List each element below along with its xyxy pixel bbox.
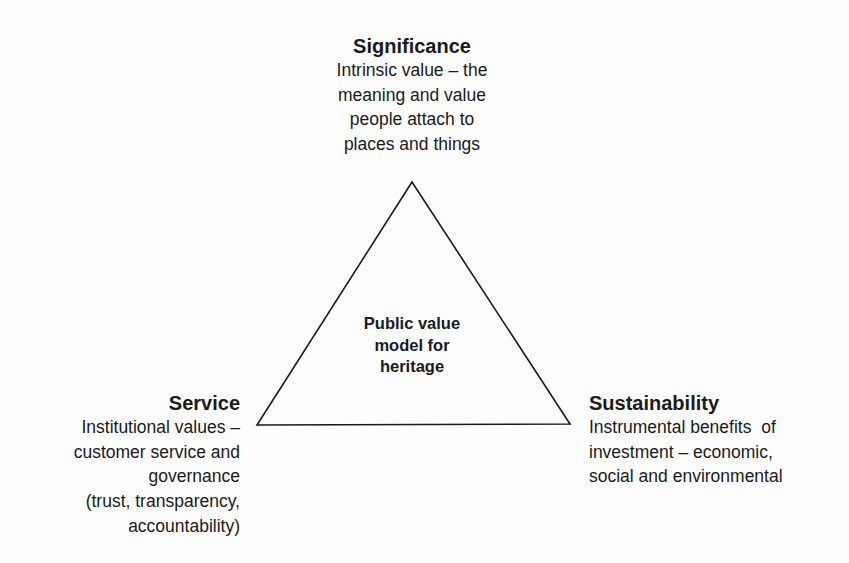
service-description-line: Institutional values – bbox=[0, 415, 240, 440]
center-label: Public value model for heritage bbox=[332, 313, 492, 378]
center-label-line: Public value bbox=[332, 313, 492, 335]
center-label-line: heritage bbox=[332, 356, 492, 378]
node-sustainability: Sustainability Instrumental benefits of … bbox=[589, 391, 849, 489]
service-description-line: customer service and bbox=[0, 440, 240, 465]
service-description-line: governance bbox=[0, 464, 240, 489]
center-label-line: model for bbox=[332, 335, 492, 357]
significance-description-line: people attach to bbox=[262, 107, 562, 132]
sustainability-description-line: Instrumental benefits of bbox=[589, 415, 849, 440]
significance-description-line: meaning and value bbox=[262, 83, 562, 108]
sustainability-description-line: social and environmental bbox=[589, 464, 849, 489]
triangle-shape bbox=[257, 182, 570, 425]
node-service: Service Institutional values – customer … bbox=[0, 391, 240, 539]
significance-description-line: Intrinsic value – the bbox=[262, 58, 562, 83]
significance-description-line: places and things bbox=[262, 132, 562, 157]
service-description-line: (trust, transparency, bbox=[0, 489, 240, 514]
node-significance: Significance Intrinsic value – the meani… bbox=[262, 34, 562, 157]
sustainability-description-line: investment – economic, bbox=[589, 440, 849, 465]
service-title: Service bbox=[0, 391, 240, 415]
service-description-line: accountability) bbox=[0, 514, 240, 539]
significance-title: Significance bbox=[262, 34, 562, 58]
sustainability-title: Sustainability bbox=[589, 391, 849, 415]
